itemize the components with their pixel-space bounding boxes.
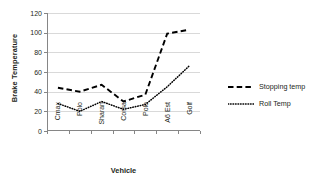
x-tick-label: Sharan bbox=[98, 102, 105, 134]
chart-container: Brake Temperature 020406080100120 CmaxPo… bbox=[0, 0, 322, 180]
x-tick-mark bbox=[69, 131, 70, 134]
x-tick-mark bbox=[47, 131, 48, 134]
y-tick-label: 120 bbox=[30, 10, 42, 17]
y-tick-label: 40 bbox=[34, 88, 42, 95]
legend-label: Roll Temp bbox=[259, 100, 291, 108]
legend-swatch-icon bbox=[228, 100, 254, 108]
x-tick-mark bbox=[156, 131, 157, 134]
legend-item-2[interactable]: Roll Temp bbox=[228, 97, 320, 110]
x-tick-mark bbox=[200, 131, 201, 134]
legend-swatch-icon bbox=[228, 83, 254, 91]
legend-item-1[interactable]: Stopping temp bbox=[228, 80, 320, 93]
x-axis-title: Vehicle bbox=[47, 166, 200, 175]
legend-label: Stopping temp bbox=[259, 83, 305, 91]
x-tick-mark bbox=[178, 131, 179, 134]
x-tick-mark bbox=[91, 131, 92, 134]
x-tick-label: Golf bbox=[186, 102, 193, 134]
y-tick-label: 100 bbox=[30, 29, 42, 36]
x-tick-label: A6 Est bbox=[164, 102, 171, 134]
x-tick-label: Corsa bbox=[120, 102, 127, 134]
x-tick-label: Polo bbox=[76, 102, 83, 134]
y-tick-label: 0 bbox=[38, 128, 42, 135]
y-tick-label: 60 bbox=[34, 69, 42, 76]
y-tick-label: 20 bbox=[34, 108, 42, 115]
x-tick-mark bbox=[113, 131, 114, 134]
y-axis-title: Brake Temperature bbox=[10, 13, 22, 123]
y-tick-label: 80 bbox=[34, 49, 42, 56]
chart-legend: Stopping tempRoll Temp bbox=[228, 80, 320, 114]
x-tick-label: Cmax bbox=[54, 102, 61, 134]
x-tick-mark bbox=[134, 131, 135, 134]
x-tick-label: Polo bbox=[142, 102, 149, 134]
series-line-1 bbox=[58, 30, 189, 102]
